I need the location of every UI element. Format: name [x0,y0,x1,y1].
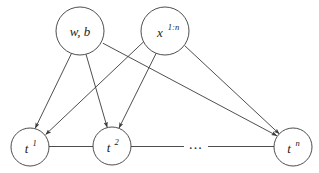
node-label-t1: t [25,141,29,156]
edge-x-to-t1 [46,42,144,135]
node-t1: t 1 [11,128,49,166]
edge-x-to-tn [185,46,280,134]
node-x: x 1:n [141,7,189,55]
node-circle-tn [274,128,312,166]
node-label-t2: t [107,140,111,155]
edge-wb-to-tn [103,43,277,136]
edges-from-wb [35,43,277,136]
node-label-tn-superscript: n [295,138,299,148]
node-label-wb: w, b [70,24,91,39]
chain-ellipsis: ... [189,137,203,152]
edges-from-x [46,42,280,135]
node-circle-t1 [11,128,49,166]
node-t2: t 2 [93,127,131,165]
edge-wb-to-t2 [86,54,107,127]
diagram-canvas: w, b x 1:n t 1 t 2 t n ... [0,0,319,173]
node-tn: t n [274,128,312,166]
node-label-x-superscript: 1:n [168,22,179,32]
node-label-x: x [156,25,163,40]
node-circle-x [141,7,189,55]
node-label-tn: t [287,141,291,156]
node-label-t1-superscript: 1 [32,138,36,148]
edge-x-to-t2 [119,53,156,128]
edge-wb-to-t1 [35,53,71,128]
node-wb: w, b [56,7,104,55]
node-circle-t2 [93,127,131,165]
graphical-model-diagram: w, b x 1:n t 1 t 2 t n ... [0,0,319,173]
